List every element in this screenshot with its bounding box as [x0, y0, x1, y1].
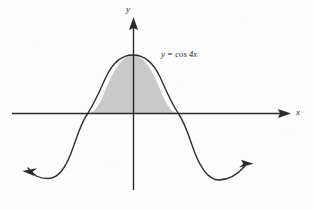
figure-canvas — [0, 0, 313, 209]
y-axis-label: y — [126, 5, 130, 14]
x-axis-label: x — [296, 108, 300, 117]
math-figure-cosine-curve: y x y = cos 4x — [0, 0, 313, 209]
curve-equation-label: y = cos 4x — [161, 50, 197, 59]
